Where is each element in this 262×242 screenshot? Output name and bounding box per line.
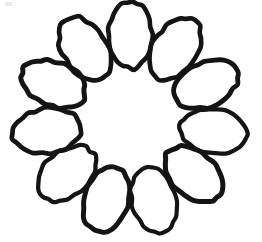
petal-loop — [176, 104, 251, 158]
petal-loop — [76, 161, 138, 237]
rosette-figure — [0, 0, 262, 242]
petal-loop — [13, 48, 95, 118]
scan-smudge — [5, 2, 12, 6]
drawing-canvas — [0, 0, 262, 242]
petal-loop — [8, 103, 83, 159]
rosette-petal-group — [8, 2, 251, 239]
petal-loop — [122, 162, 184, 240]
petal-loop — [108, 2, 153, 70]
